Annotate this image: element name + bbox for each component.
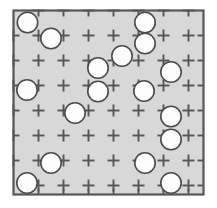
packed-circle-c11 <box>161 106 181 126</box>
packed-circle-c13 <box>41 153 61 173</box>
packed-circle-c02 <box>41 28 61 48</box>
packed-circle-c06 <box>161 62 181 82</box>
packed-circle-c16 <box>161 173 181 193</box>
packed-circle-c14 <box>135 153 155 173</box>
figure-container <box>0 0 217 208</box>
packed-circle-c04 <box>135 33 155 53</box>
packed-circle-c15 <box>17 173 37 193</box>
packed-circle-c12 <box>161 129 181 149</box>
packed-circle-c17 <box>112 46 132 66</box>
packed-circle-c03 <box>135 12 155 32</box>
packed-circle-c08 <box>88 81 108 101</box>
packed-circle-c07 <box>17 80 37 100</box>
packed-circle-c09 <box>134 81 154 101</box>
packed-circle-c10 <box>65 103 85 123</box>
lattice-circle-figure <box>0 0 217 208</box>
packed-circle-c05 <box>88 58 108 78</box>
packed-circle-c01 <box>17 12 37 32</box>
